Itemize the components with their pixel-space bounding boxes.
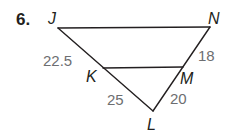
- vertex-label-l: L: [147, 116, 156, 133]
- triangle-diagram: 6. J N K M L 22.5 18 25 20: [0, 0, 234, 139]
- measure-nm: 18: [198, 47, 215, 64]
- segment-km: [103, 67, 183, 68]
- measure-ml: 20: [170, 90, 187, 107]
- vertex-label-n: N: [208, 10, 220, 27]
- vertex-label-k: K: [86, 68, 98, 85]
- measure-jk: 22.5: [43, 52, 72, 69]
- measure-kl: 25: [107, 91, 124, 108]
- segment-jl: [58, 28, 153, 111]
- problem-number: 6.: [16, 10, 30, 29]
- segment-jn: [58, 27, 210, 28]
- vertex-label-j: J: [47, 10, 57, 27]
- geometry-figure: 6. J N K M L 22.5 18 25 20: [0, 0, 234, 139]
- vertex-label-m: M: [180, 70, 194, 87]
